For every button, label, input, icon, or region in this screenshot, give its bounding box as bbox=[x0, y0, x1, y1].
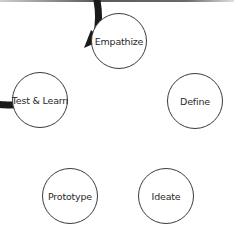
stage-label: Prototype bbox=[48, 191, 92, 202]
stage-define: Define bbox=[167, 73, 223, 129]
stage-label: Define bbox=[180, 96, 210, 107]
stage-label: Test & Learn bbox=[12, 95, 68, 106]
stage-ideate: Ideate bbox=[138, 168, 194, 224]
stage-empathize: Empathize bbox=[91, 13, 147, 69]
stage-label: Empathize bbox=[95, 36, 144, 47]
stage-label: Ideate bbox=[152, 191, 181, 202]
stage-prototype: Prototype bbox=[42, 168, 98, 224]
stage-test-and-learn: Test & Learn bbox=[12, 72, 68, 128]
